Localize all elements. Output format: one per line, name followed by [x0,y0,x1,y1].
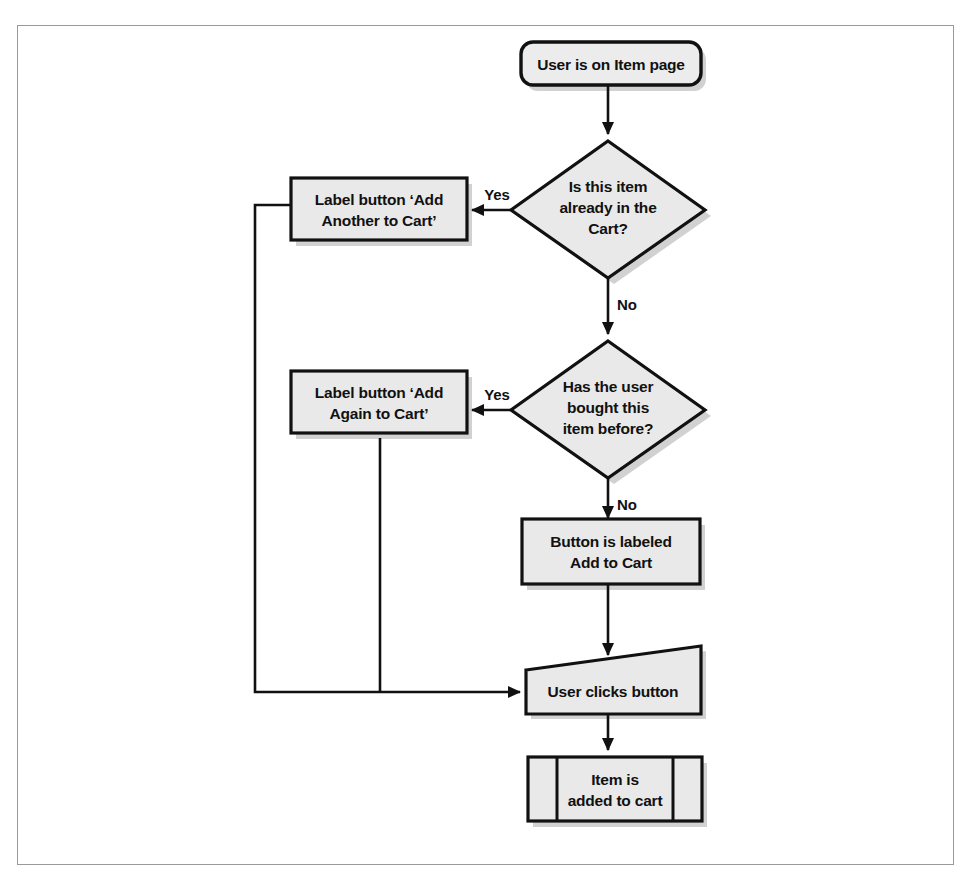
edge-label-decision1-yes: Yes [484,186,510,203]
edge-add-another-to-click [255,205,520,692]
node-label-add-another: Label button ‘Add Another to Cart’ [291,178,467,240]
node-user-clicks-button-label: User clicks button [548,683,679,700]
node-item-added-line2: added to cart [568,792,663,809]
node-decision-in-cart-line2: already in the [559,199,657,216]
flowchart-svg: User is on Item page Is this item alread… [0,0,970,887]
node-label-add-again-line1: Label button ‘Add [315,384,443,401]
node-decision-bought-before-line1: Has the user [563,378,654,395]
node-label-add-again: Label button ‘Add Again to Cart’ [291,371,467,433]
node-decision-bought-before-line2: bought this [567,399,649,416]
node-button-labeled-line1: Button is labeled [550,533,671,550]
node-user-clicks-button: User clicks button [526,646,701,714]
edge-label-decision2-no: No [617,496,637,513]
node-start-label: User is on Item page [537,56,685,73]
figure-canvas: User is on Item page Is this item alread… [0,0,970,887]
edge-label-decision1-no: No [617,296,637,313]
node-button-labeled-add-to-cart: Button is labeled Add to Cart [522,519,700,584]
node-decision-bought-before-line3: item before? [563,420,654,437]
node-label-add-another-line1: Label button ‘Add [315,191,443,208]
node-item-added-line1: Item is [591,771,639,788]
node-decision-in-cart-line1: Is this item [569,178,648,195]
node-label-add-another-line2: Another to Cart’ [322,212,437,229]
node-start: User is on Item page [521,42,701,85]
node-button-labeled-line2: Add to Cart [570,554,652,571]
node-decision-in-cart-line3: Cart? [588,220,627,237]
node-decision-bought-before: Has the user bought this item before? [511,341,705,478]
node-decision-in-cart: Is this item already in the Cart? [511,141,705,278]
edge-label-decision2-yes: Yes [484,386,510,403]
node-item-added-to-cart: Item is added to cart [528,757,702,821]
node-label-add-again-line2: Again to Cart’ [330,405,429,422]
